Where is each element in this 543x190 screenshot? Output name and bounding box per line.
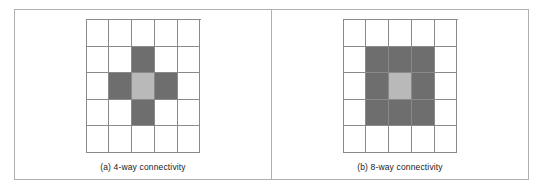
grid-cell (412, 47, 435, 74)
grid-cell (366, 73, 389, 100)
grid-cell (109, 47, 132, 74)
grid-cell (178, 20, 201, 47)
grid-cell (389, 20, 412, 47)
grid-cell (155, 47, 178, 74)
grid-cell (132, 20, 155, 47)
grid-cell (389, 126, 412, 153)
grid-cell (389, 47, 412, 74)
grid-cell (389, 100, 412, 127)
grid-cell (132, 47, 155, 74)
grid-cell (155, 100, 178, 127)
grid-cell (155, 126, 178, 153)
connectivity-figure: (a) 4-way connectivity (b) 8-way connect… (14, 9, 529, 180)
grid-wrapper-8way (343, 19, 458, 153)
grid-cell (87, 73, 110, 100)
grid-cell (109, 100, 132, 127)
caption-8way: (b) 8-way connectivity (357, 162, 443, 172)
grid-cell (132, 126, 155, 153)
caption-4way: (a) 4-way connectivity (100, 162, 186, 172)
grid-cell (178, 47, 201, 74)
grid-cell (435, 100, 458, 127)
grid-cell (155, 20, 178, 47)
grid-cell (412, 20, 435, 47)
panel-4way: (a) 4-way connectivity (15, 10, 271, 179)
grid-cell (132, 73, 155, 100)
grid-cell (155, 73, 178, 100)
grid-cell (87, 126, 110, 153)
grid-cell (87, 100, 110, 127)
grid-cell (87, 20, 110, 47)
grid-cell (344, 73, 367, 100)
grid-cell (366, 47, 389, 74)
grid-cell (87, 47, 110, 74)
grid-cell (344, 126, 367, 153)
grid-cell (435, 73, 458, 100)
grid-cell (109, 126, 132, 153)
grid-cell (435, 20, 458, 47)
pixel-grid-4way (86, 19, 201, 153)
grid-cell (412, 126, 435, 153)
grid-wrapper-4way (86, 19, 201, 153)
grid-cell (344, 100, 367, 127)
grid-cell (344, 20, 367, 47)
grid-cell (389, 73, 412, 100)
grid-cell (366, 100, 389, 127)
grid-cell (366, 126, 389, 153)
grid-cell (435, 126, 458, 153)
panel-8way: (b) 8-way connectivity (271, 10, 528, 179)
grid-cell (109, 73, 132, 100)
grid-cell (412, 100, 435, 127)
grid-cell (132, 100, 155, 127)
grid-cell (178, 100, 201, 127)
grid-cell (178, 126, 201, 153)
grid-cell (344, 47, 367, 74)
grid-cell (178, 73, 201, 100)
grid-cell (366, 20, 389, 47)
grid-cell (109, 20, 132, 47)
grid-cell (435, 47, 458, 74)
grid-cell (412, 73, 435, 100)
pixel-grid-8way (343, 19, 458, 153)
